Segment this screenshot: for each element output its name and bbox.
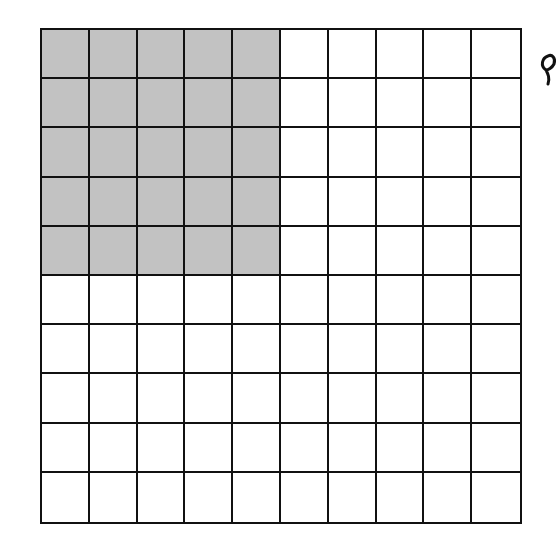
grid-cell (233, 473, 281, 522)
grid-cell (329, 424, 377, 473)
shaded-cell (233, 227, 281, 276)
grid-cell (90, 325, 138, 374)
grid-cell (138, 424, 186, 473)
shaded-cell (138, 128, 186, 177)
grid-cell (185, 374, 233, 423)
grid-cell (233, 325, 281, 374)
grid-cell (281, 79, 329, 128)
shaded-cell (90, 128, 138, 177)
grid-cell (472, 276, 520, 325)
grid-cell (472, 227, 520, 276)
shaded-cell (138, 178, 186, 227)
shaded-cell (42, 30, 90, 79)
grid-cell (377, 178, 425, 227)
grid-cell (424, 178, 472, 227)
handwritten-mark-icon (538, 52, 558, 92)
grid-cell (281, 30, 329, 79)
grid-cell (185, 424, 233, 473)
shaded-cell (185, 128, 233, 177)
shaded-cell (185, 227, 233, 276)
grid-cell (90, 473, 138, 522)
grid-cell (377, 276, 425, 325)
grid-cell (377, 128, 425, 177)
grid-cell (377, 473, 425, 522)
grid-cell (185, 276, 233, 325)
grid-cell (281, 473, 329, 522)
grid-cell (472, 128, 520, 177)
grid-cell (377, 325, 425, 374)
shaded-cell (233, 79, 281, 128)
shaded-cell (90, 30, 138, 79)
grid-cell (329, 30, 377, 79)
grid-cell (472, 79, 520, 128)
grid-cell (472, 178, 520, 227)
grid-cell (42, 325, 90, 374)
grid-cell (233, 374, 281, 423)
shaded-cell (185, 79, 233, 128)
shaded-cell (42, 227, 90, 276)
shaded-cell (233, 178, 281, 227)
shaded-cell (233, 30, 281, 79)
grid-cell (329, 473, 377, 522)
grid-cell (377, 227, 425, 276)
shaded-cell (42, 178, 90, 227)
grid-cell (424, 128, 472, 177)
grid-cell (138, 374, 186, 423)
grid-cell (138, 473, 186, 522)
grid-cell (424, 424, 472, 473)
shaded-cell (233, 128, 281, 177)
shaded-cell (42, 79, 90, 128)
grid-cell (424, 227, 472, 276)
shaded-cell (185, 30, 233, 79)
grid-cell (90, 374, 138, 423)
grid-cell (377, 424, 425, 473)
shaded-cell (138, 227, 186, 276)
shaded-cell (90, 178, 138, 227)
grid-cell (42, 276, 90, 325)
grid-cell (138, 276, 186, 325)
shaded-cell (90, 79, 138, 128)
grid-cell (281, 424, 329, 473)
grid-cell (42, 473, 90, 522)
grid-cell (377, 30, 425, 79)
grid-cell (472, 30, 520, 79)
grid-cell (138, 325, 186, 374)
grid-cell (377, 79, 425, 128)
grid-cell (424, 79, 472, 128)
grid-cell (472, 424, 520, 473)
grid-cell (424, 276, 472, 325)
grid-cell (281, 227, 329, 276)
grid-cell (233, 424, 281, 473)
shaded-cell (185, 178, 233, 227)
grid-cell (233, 276, 281, 325)
grid-cell (185, 473, 233, 522)
grid-cell (281, 374, 329, 423)
grid-cell (329, 79, 377, 128)
grid-cell (424, 473, 472, 522)
grid-cell (185, 325, 233, 374)
grid-cell (424, 30, 472, 79)
grid-cell (42, 424, 90, 473)
grid-cell (329, 227, 377, 276)
grid-cell (377, 374, 425, 423)
grid-cell (472, 325, 520, 374)
grid-cell (329, 374, 377, 423)
grid-cell (472, 473, 520, 522)
grid-cell (329, 325, 377, 374)
grid-cell (281, 276, 329, 325)
grid-cell (329, 276, 377, 325)
shaded-cell (90, 227, 138, 276)
grid-cell (472, 374, 520, 423)
grid-cell (329, 128, 377, 177)
grid-cell (424, 325, 472, 374)
grid-cell (281, 325, 329, 374)
grid-cell (42, 374, 90, 423)
grid-cell (424, 374, 472, 423)
hundred-grid (40, 28, 522, 524)
shaded-cell (42, 128, 90, 177)
grid-cell (281, 128, 329, 177)
grid-cell (281, 178, 329, 227)
grid-cell (329, 178, 377, 227)
shaded-cell (138, 30, 186, 79)
shaded-cell (138, 79, 186, 128)
